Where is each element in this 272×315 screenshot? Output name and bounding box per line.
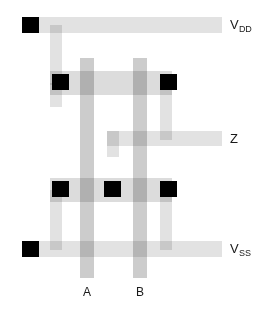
vdd-label-sub: DD	[239, 24, 252, 34]
poly-gate-b	[133, 58, 147, 278]
contact-vss-left	[22, 241, 39, 257]
vss-label-main: V	[230, 241, 239, 256]
poly-gate-a	[80, 58, 94, 278]
contact-nmos-mid	[104, 181, 121, 197]
contact-nmos-left	[52, 181, 69, 197]
vdd-label-main: V	[230, 17, 239, 32]
nmos-left-to-vss-strip	[50, 190, 62, 250]
z-label: Z	[230, 132, 238, 145]
contact-nmos-right	[160, 181, 177, 197]
contact-pmos-left	[52, 74, 69, 90]
z-label-main: Z	[230, 131, 238, 146]
vss-label: VSS	[230, 242, 251, 255]
cmos-layout-figure: VDD Z VSS A B	[0, 0, 272, 315]
contact-pmos-right	[160, 74, 177, 90]
vdd-label: VDD	[230, 18, 252, 31]
gate-b-label: B	[133, 286, 147, 298]
nmos-right-to-vss-strip	[160, 190, 172, 250]
gate-a-label: A	[80, 286, 94, 298]
vss-label-sub: SS	[239, 248, 251, 258]
z-riser-strip	[107, 131, 119, 157]
contact-vdd-left	[22, 17, 39, 33]
